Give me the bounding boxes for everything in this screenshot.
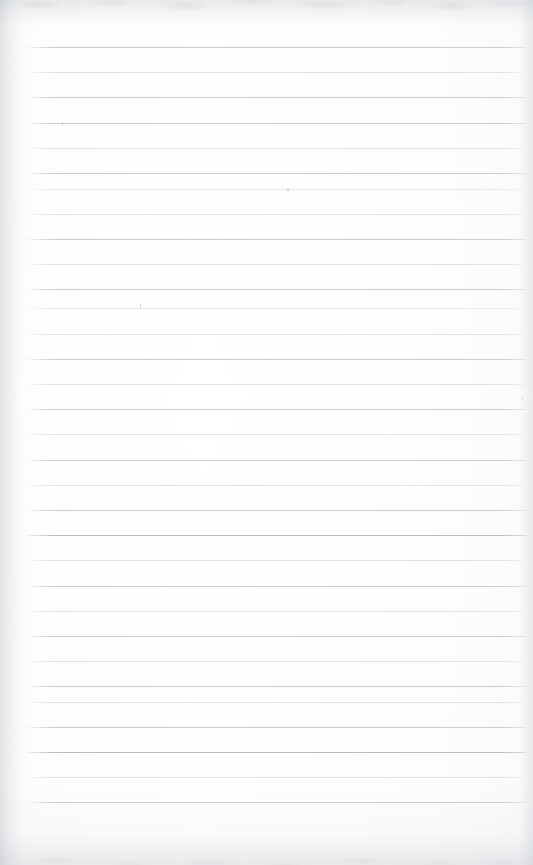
rule-line — [27, 777, 527, 778]
rule-line — [27, 123, 527, 124]
scanned-page — [0, 0, 533, 865]
rule-line — [27, 264, 527, 265]
rule-line — [27, 586, 527, 587]
rule-line — [27, 661, 527, 662]
rule-line — [27, 148, 527, 149]
rule-line — [27, 189, 527, 190]
rule-line — [27, 535, 527, 536]
rule-line — [27, 752, 527, 753]
rule-line — [27, 72, 527, 73]
rule-line — [27, 560, 527, 561]
rule-line — [27, 686, 527, 687]
rule-line — [27, 173, 527, 174]
rule-line — [27, 334, 527, 335]
rule-line — [27, 47, 527, 48]
rule-line — [27, 727, 527, 728]
rule-line — [27, 636, 527, 637]
rule-line — [27, 409, 527, 410]
rule-line — [27, 214, 527, 215]
rule-line — [27, 434, 527, 435]
rule-line — [27, 485, 527, 486]
rule-line — [27, 510, 527, 511]
rule-line — [27, 308, 527, 309]
rule-line — [27, 359, 527, 360]
rule-line — [27, 611, 527, 612]
rule-line — [27, 239, 527, 240]
rule-line — [27, 384, 527, 385]
rule-line — [27, 702, 527, 703]
rule-line — [27, 802, 527, 803]
rule-line — [27, 460, 527, 461]
rule-line — [27, 289, 527, 290]
rule-line — [27, 97, 527, 98]
ruled-lines-layer — [0, 0, 533, 865]
